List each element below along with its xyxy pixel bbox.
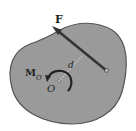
point-o-label: O [47,83,55,94]
moment-label: M [25,67,36,78]
point-o-marker [58,80,61,83]
moment-subscript: O [36,74,42,82]
moment-diagram: F M O O d [0,0,136,131]
force-application-point [105,69,108,72]
force-label: F [55,13,63,26]
distance-label: d [68,60,74,70]
